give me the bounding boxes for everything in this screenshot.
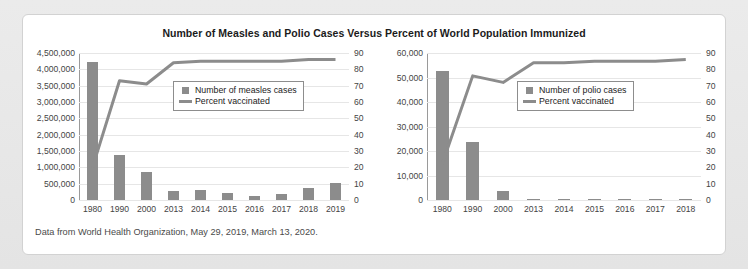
polio-y-tick-label: 0 — [418, 195, 423, 205]
measles-x-tick-label: 2015 — [218, 204, 237, 214]
polio-y2-tick-label: 80 — [706, 64, 716, 74]
measles-y2-tick-label: 70 — [354, 81, 364, 91]
polio-x-tick-label: 2014 — [554, 204, 573, 214]
measles-y2-tick-label: 30 — [354, 146, 364, 156]
measles-y-tick-label: 4,500,000 — [37, 48, 75, 58]
measles-y-tick-label: 1,000,000 — [37, 162, 75, 172]
measles-chart-panel: 0500,0001,000,0001,500,0002,000,0002,500… — [25, 45, 375, 225]
polio-y2-tick-label: 20 — [706, 162, 716, 172]
legend-item-percent-vaccinated: Percent vaccinated — [178, 96, 297, 107]
measles-y-tick-label: 4,000,000 — [37, 64, 75, 74]
measles-y2-tick-label: 50 — [354, 113, 364, 123]
measles-y-tick-label: 0 — [70, 195, 75, 205]
polio-x-tick-label: 2000 — [494, 204, 513, 214]
chart-card: Number of Measles and Polio Cases Versus… — [22, 14, 726, 255]
measles-x-tick-label: 1980 — [83, 204, 102, 214]
polio-x-tick-label: 2013 — [524, 204, 543, 214]
line-swatch-icon — [523, 100, 536, 104]
charts-container: 0500,0001,000,0001,500,0002,000,0002,500… — [23, 45, 726, 225]
bar-swatch-icon — [526, 87, 533, 94]
measles-x-tick-label: 2013 — [164, 204, 183, 214]
measles-y-tick-label: 3,500,000 — [37, 81, 75, 91]
polio-x-tick-label: 2015 — [585, 204, 604, 214]
polio-y2-tick-label: 40 — [706, 130, 716, 140]
polio-y2-tick-label: 0 — [706, 195, 711, 205]
measles-legend: Number of measles cases Percent vaccinat… — [173, 81, 304, 111]
measles-y-tick-label: 500,000 — [44, 179, 75, 189]
measles-y2-tick-label: 90 — [354, 48, 364, 58]
polio-y2-tick-label: 60 — [706, 97, 716, 107]
polio-y2-tick-label: 30 — [706, 146, 716, 156]
polio-y2-tick-label: 10 — [706, 179, 716, 189]
polio-y-tick-label: 60,000 — [397, 48, 423, 58]
measles-y-tick-label: 2,000,000 — [37, 130, 75, 140]
source-caption: Data from World Health Organization, May… — [35, 227, 318, 237]
page-title: Number of Measles and Polio Cases Versus… — [23, 27, 725, 39]
measles-y2-tick-label: 80 — [354, 64, 364, 74]
polio-legend: Number of polio cases Percent vaccinated — [517, 81, 634, 111]
polio-y-tick-label: 10,000 — [397, 171, 423, 181]
legend-item-polio-cases: Number of polio cases — [522, 85, 627, 96]
line-swatch-icon — [179, 100, 192, 104]
measles-x-tick-label: 2014 — [191, 204, 210, 214]
polio-plot-area: 010,00020,00030,00040,00050,00060,000010… — [427, 53, 701, 201]
polio-x-tick-label: 2018 — [676, 204, 695, 214]
measles-y-tick-label: 1,500,000 — [37, 146, 75, 156]
polio-y2-tick-label: 50 — [706, 113, 716, 123]
legend-label-polio-cases: Number of polio cases — [539, 85, 627, 96]
measles-x-tick-label: 2016 — [245, 204, 264, 214]
measles-y-tick-label: 2,500,000 — [37, 113, 75, 123]
measles-y2-tick-label: 20 — [354, 162, 364, 172]
polio-x-tick-label: 1980 — [433, 204, 452, 214]
measles-y2-tick-label: 40 — [354, 130, 364, 140]
polio-y-tick-label: 50,000 — [397, 73, 423, 83]
polio-x-tick-label: 2017 — [646, 204, 665, 214]
measles-y2-tick-label: 0 — [354, 195, 359, 205]
measles-x-tick-label: 2017 — [272, 204, 291, 214]
polio-x-tick-label: 1990 — [463, 204, 482, 214]
polio-y-tick-label: 40,000 — [397, 97, 423, 107]
legend-label-percent-vaccinated: Percent vaccinated — [195, 96, 270, 107]
measles-x-tick-label: 2019 — [326, 204, 345, 214]
measles-plot-area: 0500,0001,000,0001,500,0002,000,0002,500… — [79, 53, 349, 201]
measles-line-series — [79, 53, 349, 201]
legend-label-percent-vaccinated: Percent vaccinated — [539, 96, 614, 107]
measles-y2-tick-label: 10 — [354, 179, 364, 189]
measles-x-tick-label: 1990 — [110, 204, 129, 214]
legend-label-measles-cases: Number of measles cases — [195, 85, 297, 96]
measles-x-tick-label: 2000 — [137, 204, 156, 214]
measles-y2-tick-label: 60 — [354, 97, 364, 107]
measles-y-tick-label: 3,000,000 — [37, 97, 75, 107]
measles-x-tick-label: 2018 — [299, 204, 318, 214]
legend-item-percent-vaccinated: Percent vaccinated — [522, 96, 627, 107]
polio-line-series — [427, 53, 701, 201]
polio-y-tick-label: 20,000 — [397, 146, 423, 156]
polio-y2-tick-label: 70 — [706, 81, 716, 91]
legend-item-measles-cases: Number of measles cases — [178, 85, 297, 96]
polio-x-tick-label: 2016 — [615, 204, 634, 214]
polio-y2-tick-label: 90 — [706, 48, 716, 58]
bar-swatch-icon — [182, 87, 189, 94]
polio-y-tick-label: 30,000 — [397, 122, 423, 132]
polio-chart-panel: 010,00020,00030,00040,00050,00060,000010… — [377, 45, 726, 225]
